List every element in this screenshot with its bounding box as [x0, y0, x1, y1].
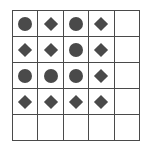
grid-cell-r2-c1: [13, 37, 38, 63]
grid-cell-r2-c4: [89, 37, 114, 63]
diamond-icon: [44, 42, 58, 56]
grid-cell-r2-c2: [38, 37, 63, 63]
grid-cell-r3-c4: [89, 63, 114, 89]
circle-icon: [18, 69, 32, 83]
diamond-icon: [94, 42, 108, 56]
grid-cell-r4-c2: [38, 89, 63, 115]
grid-cell-r1-c1: [13, 11, 38, 37]
grid-cell-r3-c1: [13, 63, 38, 89]
diamond-icon: [94, 94, 108, 108]
grid-cell-r5-c4: [89, 115, 114, 141]
diamond-icon: [94, 16, 108, 30]
shape-grid: [12, 10, 140, 141]
grid-cell-r1-c4: [89, 11, 114, 37]
circle-icon: [69, 43, 83, 57]
diamond-icon: [18, 42, 32, 56]
diamond-icon: [44, 16, 58, 30]
grid-cell-r2-c3: [64, 37, 89, 63]
grid-cell-r1-c5: [115, 11, 140, 37]
grid-cell-r5-c1: [13, 115, 38, 141]
circle-icon: [18, 17, 32, 31]
grid-cell-r3-c3: [64, 63, 89, 89]
grid-cell-r1-c2: [38, 11, 63, 37]
grid-cell-r4-c5: [115, 89, 140, 115]
grid-cell-r5-c2: [38, 115, 63, 141]
circle-icon: [44, 69, 58, 83]
grid-cell-r4-c1: [13, 89, 38, 115]
grid-cell-r4-c3: [64, 89, 89, 115]
diamond-icon: [69, 94, 83, 108]
grid-cell-r2-c5: [115, 37, 140, 63]
diamond-icon: [44, 94, 58, 108]
circle-icon: [69, 69, 83, 83]
grid-cell-r1-c3: [64, 11, 89, 37]
circle-icon: [69, 17, 83, 31]
grid-cell-r5-c3: [64, 115, 89, 141]
grid-cell-r3-c5: [115, 63, 140, 89]
grid-cell-r5-c5: [115, 115, 140, 141]
grid-cell-r3-c2: [38, 63, 63, 89]
grid-cell-r4-c4: [89, 89, 114, 115]
diamond-icon: [18, 94, 32, 108]
diamond-icon: [94, 68, 108, 82]
